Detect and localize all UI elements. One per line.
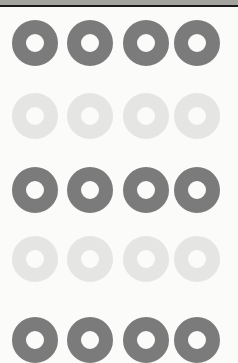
donut-icon	[67, 20, 113, 66]
donut-icon	[174, 167, 220, 213]
donut-icon	[67, 236, 113, 282]
donut-icon	[123, 20, 169, 66]
donut-icon	[174, 20, 220, 66]
donut-icon	[123, 93, 169, 139]
donut-icon	[123, 317, 169, 363]
donut-icon	[12, 236, 58, 282]
donut-icon	[174, 236, 220, 282]
donut-icon	[174, 93, 220, 139]
donut-icon	[67, 167, 113, 213]
donut-icon	[123, 236, 169, 282]
donut-icon	[67, 93, 113, 139]
donut-icon	[67, 317, 113, 363]
donut-icon	[174, 317, 220, 363]
donut-icon	[123, 167, 169, 213]
donut-icon	[12, 167, 58, 213]
donut-icon	[12, 317, 58, 363]
donut-icon	[12, 93, 58, 139]
donut-icon	[12, 20, 58, 66]
